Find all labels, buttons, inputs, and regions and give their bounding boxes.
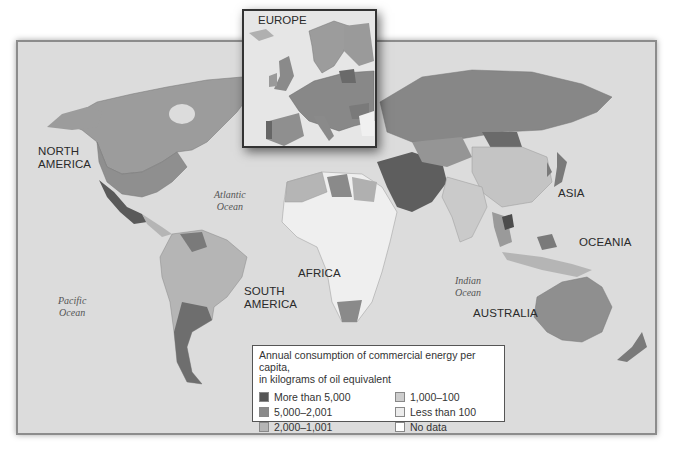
label-australia: AUSTRALIA: [473, 307, 538, 320]
europe-inset-map: EUROPE: [242, 9, 377, 148]
region-argentina: [174, 302, 212, 384]
legend-item: 2,000–1,001: [259, 420, 395, 434]
label-north-america: NORTHAMERICA: [38, 145, 91, 171]
legend-title: Annual consumption of commercial energy …: [259, 349, 498, 385]
legend-item: Less than 100: [395, 405, 505, 419]
inset-title: EUROPE: [258, 14, 307, 26]
region-australia: [534, 277, 612, 342]
legend-swatch: [395, 407, 405, 417]
label-south-america: SOUTHAMERICA: [244, 285, 297, 311]
region-alaska: [47, 107, 102, 130]
legend-swatch: [259, 392, 269, 402]
label-indian-ocean: IndianOcean: [455, 275, 481, 299]
legend-swatch: [395, 392, 405, 402]
europe-shapes: [244, 11, 375, 146]
region-scandinavia: [309, 21, 349, 73]
label-oceania: OCEANIA: [579, 236, 631, 249]
label-africa: AFRICA: [298, 267, 341, 280]
region-new-zealand: [617, 332, 647, 362]
legend-item: 5,000–2,001: [259, 405, 395, 419]
label-atlantic-ocean: AtlanticOcean: [214, 189, 246, 213]
label-pacific-ocean: PacificOcean: [58, 295, 86, 319]
legend-item: 1,000–100: [395, 390, 505, 404]
legend-swatch: [259, 422, 269, 432]
legend-item: No data: [395, 420, 505, 434]
legend-swatch: [259, 407, 269, 417]
map-legend: Annual consumption of commercial energy …: [252, 345, 505, 422]
legend-item: More than 5,000: [259, 390, 395, 404]
region-indonesia: [502, 252, 592, 277]
region-russia: [380, 70, 612, 142]
legend-swatch: [395, 422, 405, 432]
label-asia: ASIA: [558, 187, 585, 200]
region-india: [442, 177, 487, 242]
